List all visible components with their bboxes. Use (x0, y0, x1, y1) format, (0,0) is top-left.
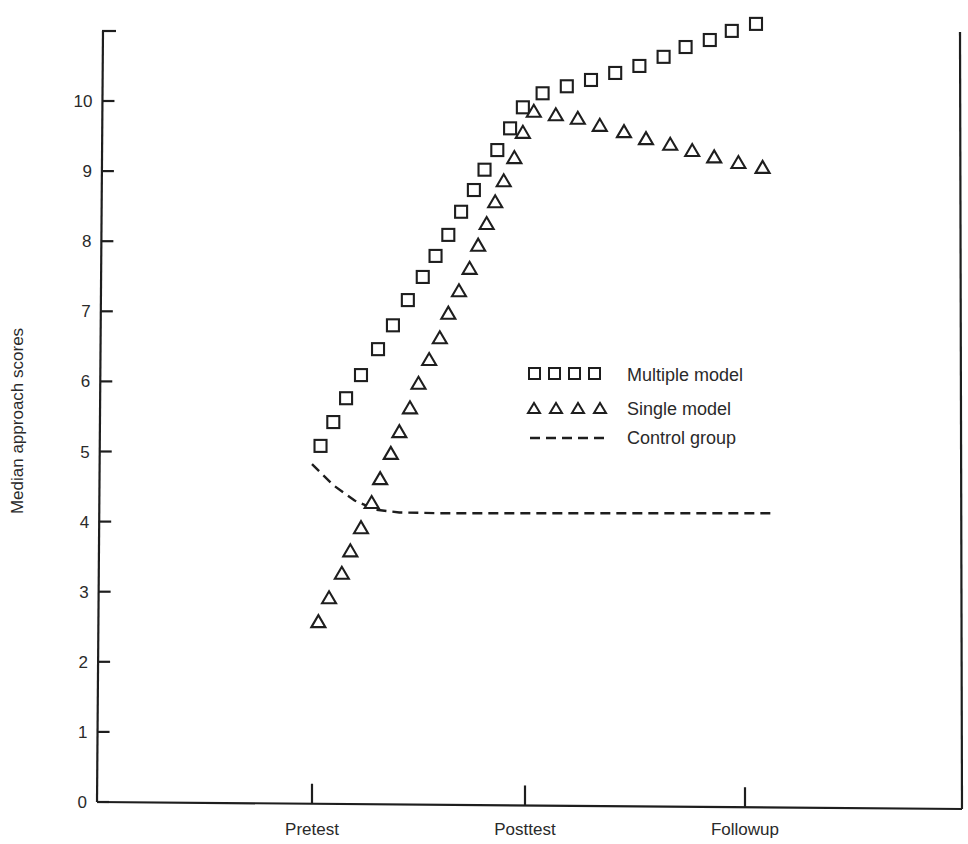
square-marker (479, 164, 491, 176)
y-tick-label: 4 (80, 513, 89, 532)
triangle-marker (663, 138, 677, 150)
triangle-marker (731, 156, 745, 168)
square-marker (315, 440, 327, 452)
square-marker (609, 67, 621, 79)
triangle-marker (433, 331, 447, 343)
y-ticks: 012345678910 (74, 92, 115, 812)
square-marker-icon (529, 368, 600, 379)
square-marker (417, 271, 429, 283)
square-marker (633, 60, 645, 72)
triangle-marker (412, 377, 426, 389)
triangle-marker (403, 401, 417, 413)
legend-label-multiple: Multiple model (627, 365, 743, 385)
triangle-marker (354, 521, 368, 533)
y-tick-label: 9 (82, 162, 91, 181)
legend: Multiple model Single model Control grou… (528, 365, 743, 448)
y-axis-line (97, 31, 103, 802)
approach-scores-chart: 012345678910 PretestPosttestFollowup Med… (0, 0, 968, 844)
triangle-marker (707, 150, 721, 162)
triangle-marker (617, 125, 631, 137)
control-group-line (312, 464, 774, 513)
triangle-marker (639, 132, 653, 144)
square-marker (504, 122, 516, 134)
triangle-marker (516, 126, 530, 138)
triangle-marker (373, 472, 387, 484)
square-marker (442, 229, 454, 241)
square-marker (585, 74, 597, 86)
square-marker (455, 206, 467, 218)
triangle-marker (335, 567, 349, 579)
triangle-marker (392, 425, 406, 437)
y-tick-label: 0 (78, 793, 87, 812)
y-tick-label: 8 (82, 232, 91, 251)
legend-label-control: Control group (627, 428, 736, 448)
triangle-marker (463, 262, 477, 274)
triangle-marker (452, 284, 466, 296)
axes-frame (97, 31, 962, 809)
triangle-marker (311, 615, 325, 627)
x-tick-label: Pretest (285, 820, 339, 839)
triangle-marker (685, 144, 699, 156)
x-ticks: PretestPosttestFollowup (285, 784, 779, 839)
triangle-marker (480, 217, 494, 229)
square-marker (491, 144, 503, 156)
y-axis-title: Median approach scores (8, 328, 27, 514)
square-marker (704, 34, 716, 46)
legend-item-multiple-model: Multiple model (529, 365, 743, 385)
triangle-marker (422, 353, 436, 365)
square-marker (340, 392, 352, 404)
square-marker (658, 51, 670, 63)
triangle-marker (756, 161, 770, 173)
y-tick-label: 10 (74, 92, 93, 111)
series-multiple-model (315, 18, 762, 452)
square-marker (750, 18, 762, 30)
y-tick-label: 1 (78, 723, 87, 742)
square-marker (561, 80, 573, 92)
legend-item-single-model: Single model (528, 399, 731, 419)
y-tick-label: 3 (79, 583, 88, 602)
square-marker (372, 343, 384, 355)
right-border-line (960, 32, 962, 809)
square-marker (517, 101, 529, 113)
square-marker (468, 184, 480, 196)
square-marker (680, 41, 692, 53)
legend-label-single: Single model (627, 399, 731, 419)
y-tick-label: 7 (81, 302, 90, 321)
square-marker (430, 250, 442, 262)
series-control-group (312, 464, 774, 513)
square-marker (726, 25, 738, 37)
x-tick-label: Followup (711, 820, 779, 839)
triangle-marker (571, 112, 585, 124)
triangle-marker (488, 195, 502, 207)
triangle-marker (322, 591, 336, 603)
x-tick-label: Posttest (494, 820, 556, 839)
x-axis-line (97, 802, 962, 809)
triangle-marker-icon (528, 403, 606, 413)
y-tick-label: 6 (81, 372, 90, 391)
triangle-marker (365, 496, 379, 508)
y-tick-label: 5 (80, 443, 89, 462)
triangle-marker (384, 447, 398, 459)
triangle-marker (497, 174, 511, 186)
triangle-marker (507, 151, 521, 163)
triangle-marker (593, 119, 607, 131)
square-marker (387, 319, 399, 331)
legend-item-control-group: Control group (530, 428, 736, 448)
triangle-marker (343, 544, 357, 556)
y-tick-label: 2 (79, 653, 88, 672)
triangle-marker (441, 307, 455, 319)
square-marker (537, 87, 549, 99)
square-marker (355, 369, 367, 381)
triangle-marker (471, 239, 485, 251)
square-marker (402, 294, 414, 306)
triangle-marker (549, 108, 563, 120)
square-marker (327, 416, 339, 428)
